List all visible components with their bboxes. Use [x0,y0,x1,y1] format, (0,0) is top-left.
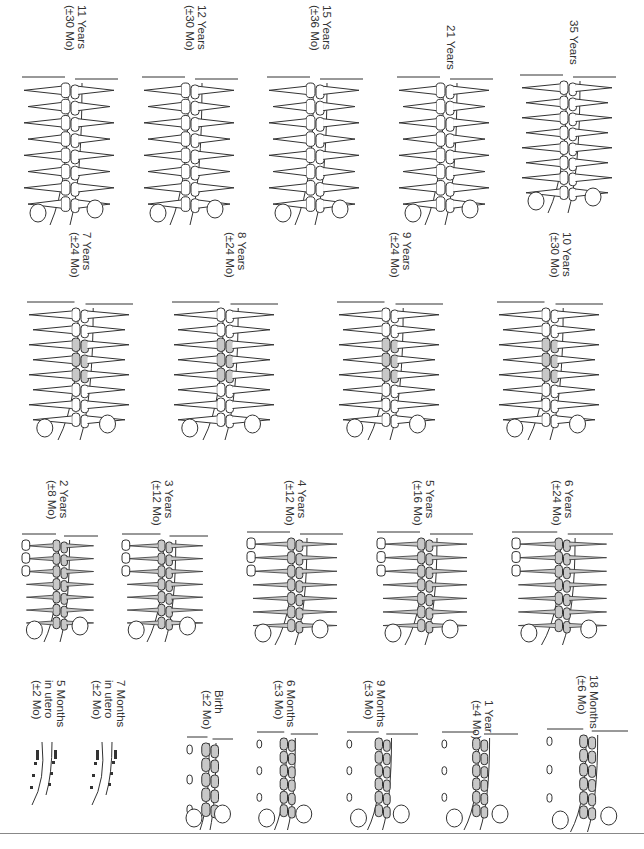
panel-label: 35 Years [568,20,580,65]
panel-18-months: 18 Months(±6 Mo) [540,675,640,830]
panel-9-months: 9 Months(±3 Mo) [345,680,435,830]
panel-label: 2 Years(±8 Mo) [46,480,70,520]
panel-label: 6 Years(±24 Mo) [551,480,575,526]
age-label: 8 Years [236,232,248,278]
age-label: 9 Years [401,232,413,278]
panel-label: 15 Years(±36 Mo) [309,5,333,51]
panel-21-years: 21 Years [395,5,515,230]
panel-7-years: 7 Years(±24 Mo) [15,232,165,447]
panel-7-months-in-utero: 7 Monthsin utero(±2 Mo) [85,680,140,830]
dentition-drawing [30,740,70,810]
dentition-drawing [140,75,240,225]
range-label: (±2 Mo) [31,680,43,727]
panel-label: 12 Years(±30 Mo) [184,5,208,51]
age-label: 12 Years [196,5,208,51]
panel-label: 18 Months(±6 Mo) [576,675,600,729]
range-label: (±24 Mo) [69,232,81,278]
age-label: 5 Years [424,480,436,526]
dentition-drawing [90,740,130,810]
panel-label: 21 Years [445,25,457,70]
age-label: 3 Years [163,480,175,526]
panel-label: 4 Years(±12 Mo) [284,480,308,526]
age-label: 21 Years [445,25,457,70]
range-label: (±30 Mo) [549,232,561,278]
in-utero-label: in utero [103,680,115,727]
age-label: 6 Months [285,680,297,727]
age-label: 15 Years [321,5,333,51]
range-label: (±30 Mo) [184,5,196,51]
panel-15-years: 15 Years(±36 Mo) [265,5,385,230]
age-label: 4 Years [296,480,308,526]
panel-5-months-in-utero: 5 Monthsin utero(±2 Mo) [25,680,80,830]
panel-8-years: 8 Years(±24 Mo) [170,232,320,447]
dentition-drawing [265,75,365,225]
dentition-drawing [245,530,345,645]
panel-label: 7 Years(±24 Mo) [69,232,93,278]
panel-12-years: 12 Years(±30 Mo) [140,5,260,230]
panel-5-years: 5 Years(±16 Mo) [370,480,495,650]
range-label: (±2 Mo) [91,680,103,727]
panel-2-years: 2 Years(±8 Mo) [10,480,120,650]
panel-11-years: 11 Years(±30 Mo) [20,5,140,230]
panel-9-years: 9 Years(±24 Mo) [335,232,485,447]
panel-10-years: 10 Years(±30 Mo) [495,232,644,447]
dentition-drawing [510,530,615,645]
age-label: Birth [213,690,225,730]
panel-label: 5 Years(±16 Mo) [412,480,436,526]
dentition-drawing [255,730,320,830]
age-label: 18 Months [588,675,600,729]
dentition-drawing [170,300,280,440]
age-label: 2 Years [58,480,70,520]
range-label: (±12 Mo) [151,480,163,526]
age-label: 6 Years [563,480,575,526]
panel-6-months: 6 Months(±3 Mo) [255,680,335,830]
panel-birth: Birth(±2 Mo) [185,690,245,830]
panel-1-year: 1 Year(±4 Mo) [435,680,530,830]
dentition-drawing [395,75,495,225]
dentition-drawing [20,532,100,642]
range-label: (±24 Mo) [551,480,563,526]
dentition-drawing [120,532,210,642]
panel-label: 10 Years(±30 Mo) [549,232,573,278]
panel-6-years: 6 Years(±24 Mo) [505,480,635,650]
range-label: (±2 Mo) [201,690,213,730]
dentition-drawing [345,730,420,830]
dentition-drawing [375,530,475,645]
panel-label: Birth(±2 Mo) [201,690,225,730]
range-label: (±24 Mo) [224,232,236,278]
dentition-drawing [25,300,135,440]
range-label: (±8 Mo) [46,480,58,520]
age-label: 11 Years [76,5,88,51]
age-label: 10 Years [561,232,573,278]
age-label: 35 Years [568,20,580,65]
panel-label: 8 Years(±24 Mo) [224,232,248,278]
age-label: 7 Months [115,680,127,727]
panel-label: 7 Monthsin utero(±2 Mo) [91,680,127,727]
range-label: (±16 Mo) [412,480,424,526]
range-label: (±30 Mo) [64,5,76,51]
panel-3-years: 3 Years(±12 Mo) [115,480,235,650]
range-label: (±24 Mo) [389,232,401,278]
range-label: (±12 Mo) [284,480,296,526]
panel-35-years: 35 Years [518,5,638,230]
panel-label: 11 Years(±30 Mo) [64,5,88,51]
dentition-drawing [518,73,618,213]
range-label: (±3 Mo) [273,680,285,727]
range-label: (±6 Mo) [576,675,588,729]
dentition-drawing [185,735,235,830]
bottom-rule [0,833,644,834]
dentition-drawing [335,300,445,440]
age-label: 7 Years [81,232,93,278]
dentition-drawing [545,727,630,832]
dentition-drawing [440,730,520,830]
panel-label: 9 Months(±3 Mo) [363,680,387,727]
panel-label: 5 Monthsin utero(±2 Mo) [31,680,67,727]
panel-4-years: 4 Years(±12 Mo) [240,480,365,650]
age-label: 5 Months [55,680,67,727]
dentition-drawing [20,75,120,225]
panel-label: 3 Years(±12 Mo) [151,480,175,526]
panel-label: 6 Months(±3 Mo) [273,680,297,727]
range-label: (±36 Mo) [309,5,321,51]
age-label: 9 Months [375,680,387,727]
in-utero-label: in utero [43,680,55,727]
